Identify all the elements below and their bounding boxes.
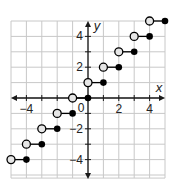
y-tick-label: −4 (69, 153, 83, 167)
open-endpoint (115, 48, 123, 56)
step-function-graph: −42442−2−40xy (0, 0, 177, 184)
closed-endpoint (85, 95, 92, 102)
x-tick-label: 2 (115, 102, 122, 116)
y-tick-label: −2 (69, 122, 83, 136)
x-axis-left-arrow-icon (11, 95, 17, 101)
origin-label: 0 (78, 101, 85, 115)
open-endpoint (99, 63, 107, 71)
closed-endpoint (23, 156, 30, 163)
open-endpoint (7, 156, 15, 164)
step-segment (146, 17, 169, 25)
closed-endpoint (39, 141, 46, 148)
closed-endpoint (146, 33, 153, 40)
step-segment (84, 79, 107, 87)
x-tick-label: −4 (20, 102, 34, 116)
open-endpoint (130, 32, 138, 40)
y-axis-label: y (93, 18, 102, 33)
x-axis-right-arrow-icon (159, 95, 165, 101)
open-endpoint (22, 140, 30, 148)
y-tick-label: 2 (76, 60, 83, 74)
open-endpoint (84, 79, 92, 87)
open-endpoint (53, 109, 61, 117)
closed-endpoint (131, 49, 138, 56)
closed-endpoint (116, 64, 123, 71)
y-tick-label: 4 (76, 29, 83, 43)
y-axis-up-arrow-icon (85, 21, 91, 27)
closed-endpoint (54, 126, 61, 133)
step-segment (22, 140, 45, 148)
step-segment (99, 63, 122, 71)
closed-endpoint (162, 18, 169, 25)
x-tick-label: 4 (146, 102, 153, 116)
open-endpoint (38, 125, 46, 133)
open-endpoint (69, 94, 77, 102)
x-axis-label: x (155, 80, 163, 95)
closed-endpoint (100, 79, 107, 86)
open-endpoint (146, 17, 154, 25)
step-segment (38, 125, 61, 133)
step-segment (53, 109, 76, 117)
step-segment (130, 32, 153, 40)
closed-endpoint (69, 110, 76, 117)
step-segment (7, 156, 30, 164)
step-segment (115, 48, 138, 56)
